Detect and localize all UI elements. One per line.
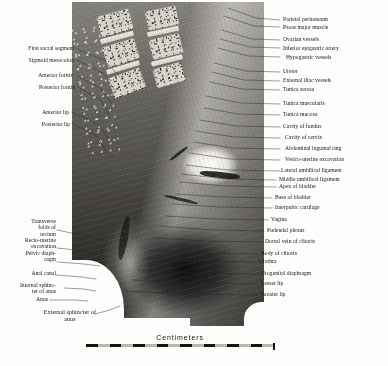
- label-anterior-lip: Anterior lip: [42, 109, 69, 115]
- label-psoas-major-muscle: Psoas major muscle: [283, 24, 328, 30]
- label-hypogastric-vessels: Hypogastric vessels: [286, 54, 332, 60]
- label-apex-of-bladder: Apex of bladder: [279, 183, 316, 189]
- label-external-iliac-vessels: External iliac vessels: [283, 77, 331, 83]
- label-ureter: Ureter: [283, 68, 298, 74]
- scale-bar: [86, 344, 274, 347]
- label-greater-lip: Greater lip: [261, 291, 286, 297]
- label-vagina: Vagina: [271, 216, 287, 222]
- scale-end-tick: [273, 343, 275, 350]
- label-tunica-serosa: Tunica serosa: [283, 86, 314, 92]
- label-posterior-lip: Posterior lip: [42, 121, 70, 127]
- label-external-sphincter-of-anus: External sphincter of anus: [44, 309, 96, 323]
- label-recto-uterine-excavation: Recto-uterine excavation: [25, 237, 56, 250]
- label-sigmoid-mesocolon: Sigmoid mesocolon: [29, 57, 74, 63]
- label-body-of-clitoris: Body of clitoris: [261, 250, 297, 256]
- label-internal-sphincter-of-anus: Internal sphinc- ter of anus: [20, 282, 56, 295]
- label-pudendal-plexus: Pudendal plexus: [267, 227, 305, 233]
- label-middle-umbilical-ligament: Middle umbilical ligament: [279, 176, 340, 182]
- label-transverse-folds-of-rectum: Transverse folds of rectum: [31, 218, 56, 237]
- label-interpubic-cartilage: Interpubic cartilage: [275, 204, 320, 210]
- label-first-sacral-segment: First sacral segment: [28, 45, 74, 51]
- anatomical-figure: First sacral segment Sigmoid mesocolon A…: [0, 0, 388, 366]
- label-vesico-uterine-excavation: Vesico-uterine excavation: [285, 156, 344, 162]
- label-urogenital-diaphragm: Urogenital diaphragm: [261, 270, 311, 276]
- label-parietal-peritoneum: Parietal peritoneum: [283, 16, 328, 22]
- label-tunica-mucosa: Tunica mucosa: [283, 111, 317, 117]
- label-lesser-lip: Lesser lip: [261, 280, 283, 286]
- label-cavity-of-fundus: Cavity of fundus: [283, 123, 321, 129]
- scale-bar-group: Centimeters: [86, 334, 274, 347]
- label-anterior-fornix: Anterior fornix: [38, 72, 73, 78]
- label-tunica-muscularis: Tunica muscularis: [283, 100, 325, 106]
- label-ovarian-vessels: Ovarian vessels: [283, 36, 319, 42]
- label-abdominal-inguinal-ring: Abdominal inguinal ring: [285, 145, 341, 151]
- label-lateral-umbilical-ligament: Lateral umbilical ligament: [281, 167, 342, 173]
- label-pelvic-diaphragm: Pelvic diaph- ragm: [26, 250, 56, 263]
- label-urethra: Urethra: [259, 258, 276, 264]
- label-anus: Anus: [36, 296, 48, 302]
- label-dorsal-vein-of-clitoris: Dorsal vein of clitoris: [265, 238, 315, 244]
- specimen-photograph: [72, 2, 264, 326]
- label-inferior-epigastric-artery: Inferior epigastric artery: [283, 45, 339, 51]
- label-cavity-of-cervix: Cavity of cervix: [285, 134, 322, 140]
- label-posterior-fornix: Posterior fornix: [39, 84, 75, 90]
- scale-caption: Centimeters: [86, 334, 274, 341]
- label-anal-canal: Anal canal: [31, 270, 56, 276]
- label-base-of-bladder: Base of bladder: [275, 194, 311, 200]
